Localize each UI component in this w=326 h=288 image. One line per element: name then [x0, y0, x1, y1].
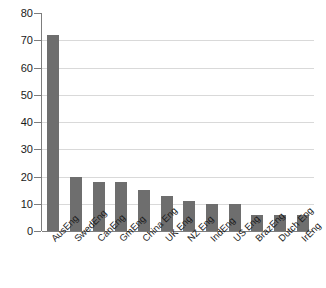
- bar-chart: 01020304050607080 AusEngSwedEngCanEngGmE…: [0, 0, 326, 288]
- y-axis-tick-mark: [34, 95, 41, 96]
- y-axis-tick-mark: [34, 204, 41, 205]
- y-axis-tick-mark: [34, 40, 41, 41]
- y-axis-tick-mark: [34, 177, 41, 178]
- y-axis-tick-label: 0: [27, 225, 33, 237]
- y-axis-tick-label: 20: [21, 171, 33, 183]
- y-axis-tick-mark: [34, 13, 41, 14]
- plot-area: [42, 13, 314, 231]
- y-axis-tick-label: 50: [21, 89, 33, 101]
- bars-group: [42, 13, 314, 231]
- y-axis-tick-label: 60: [21, 62, 33, 74]
- y-axis: 01020304050607080: [0, 0, 44, 288]
- y-axis-tick-label: 80: [21, 7, 33, 19]
- y-axis-tick-mark: [34, 68, 41, 69]
- bar: [47, 35, 59, 231]
- y-axis-tick-mark: [34, 122, 41, 123]
- y-axis-tick-label: 70: [21, 34, 33, 46]
- y-axis-tick-label: 10: [21, 198, 33, 210]
- x-axis-tick-labels: AusEngSwedEngCanEngGmEngChina EngUK EngN…: [42, 232, 326, 288]
- y-axis-tick-label: 30: [21, 143, 33, 155]
- y-axis-tick-mark: [34, 231, 41, 232]
- y-axis-tick-label: 40: [21, 116, 33, 128]
- y-axis-tick-mark: [34, 149, 41, 150]
